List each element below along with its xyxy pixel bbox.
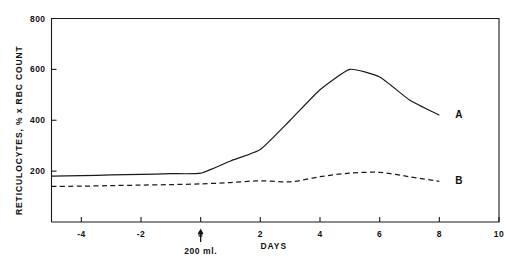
x-tick-label-4: 4 bbox=[317, 229, 322, 239]
y-tick-label-800: 800 bbox=[16, 14, 46, 24]
axis-spines bbox=[52, 19, 500, 223]
series-line-B bbox=[52, 172, 440, 186]
x-axis-title: DAYS bbox=[261, 241, 287, 251]
x-tick-label-2: 2 bbox=[258, 229, 263, 239]
x-tick-label--4: -4 bbox=[77, 229, 85, 239]
x-axis-tick-marks bbox=[81, 217, 499, 222]
data-series-group bbox=[52, 69, 440, 186]
x-tick-label--2: -2 bbox=[137, 229, 145, 239]
chart-figure: AB200400600800-4-20246810RETICULOCYTES, … bbox=[0, 0, 513, 272]
series-line-A bbox=[52, 69, 440, 176]
x-tick-label-8: 8 bbox=[437, 229, 442, 239]
y-axis-tick-marks bbox=[52, 19, 57, 172]
x-tick-label-0: 0 bbox=[198, 229, 203, 239]
x-tick-label-10: 10 bbox=[494, 229, 504, 239]
series-label-A: A bbox=[455, 109, 463, 120]
annotation-label-transfusion: 200 ml. bbox=[184, 246, 217, 256]
plot-frame bbox=[52, 19, 500, 223]
series-label-B: B bbox=[455, 175, 463, 186]
y-axis-title: RETICULOCYTES, % x RBC COUNT bbox=[14, 45, 24, 215]
x-tick-label-6: 6 bbox=[377, 229, 382, 239]
